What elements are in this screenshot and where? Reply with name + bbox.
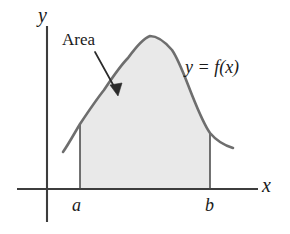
y-axis-label: y xyxy=(38,5,47,25)
x-axis-label: x xyxy=(262,175,271,195)
function-equation-label: y = f(x) xyxy=(185,58,239,76)
upper-bound-label-b: b xyxy=(205,196,214,214)
lower-bound-label-a: a xyxy=(72,196,81,214)
area-annotation-label: Area xyxy=(62,31,95,48)
area-under-curve-figure: y x a b y = f(x) Area xyxy=(0,0,290,234)
figure-canvas xyxy=(0,0,290,234)
